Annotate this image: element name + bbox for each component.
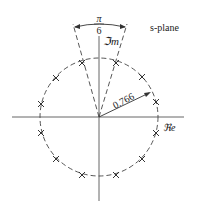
pole-marker-icon	[153, 130, 159, 136]
pole-marker-icon	[153, 99, 159, 105]
s-plane-diagram: π 6 ℑm ℜe s-plane 0.766	[0, 0, 197, 211]
angle-denominator: 6	[97, 25, 102, 36]
arrowhead-radius-icon	[144, 92, 151, 97]
pole-marker-icon	[53, 75, 59, 81]
imag-axis-label: ℑm	[103, 35, 119, 47]
real-axis-label: ℜe	[163, 122, 176, 133]
pole-marker-icon	[139, 74, 145, 80]
pole-marker-icon	[113, 172, 119, 178]
angle-line-left	[73, 24, 99, 117]
pole-marker-icon	[79, 172, 85, 178]
radius-label: 0.766	[111, 90, 136, 110]
plane-title: s-plane	[150, 22, 179, 33]
angle-numerator: π	[96, 13, 102, 24]
arrowhead-left-icon	[74, 24, 80, 29]
pole-marker-icon	[38, 130, 44, 136]
arrowhead-right-icon	[120, 24, 126, 29]
